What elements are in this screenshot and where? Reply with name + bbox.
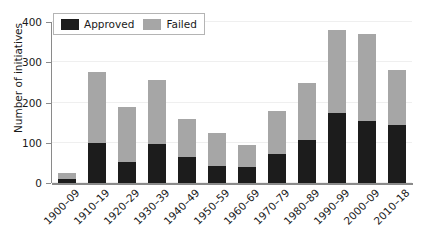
bar-segment-approved (268, 154, 287, 183)
bar-segment-approved (88, 143, 107, 183)
legend-item-failed: Failed (143, 18, 196, 30)
bar-group (268, 111, 287, 183)
bar-segment-failed (328, 30, 347, 113)
bar-segment-approved (208, 166, 227, 183)
bar-group (238, 145, 257, 183)
legend-swatch-approved (61, 19, 79, 30)
bar-group (298, 83, 317, 183)
chart-legend: Approved Failed (53, 13, 205, 35)
bar-segment-approved (178, 157, 197, 183)
bar-group (148, 80, 167, 183)
bar-segment-failed (298, 83, 317, 139)
bar-segment-approved (328, 113, 347, 183)
legend-label-approved: Approved (84, 18, 134, 30)
bar-group (208, 133, 227, 183)
bar-segment-approved (388, 125, 407, 183)
bar-group (388, 70, 407, 183)
y-tick-label: 400 (0, 17, 42, 28)
bar-group (118, 107, 137, 183)
bar-segment-failed (88, 72, 107, 142)
legend-label-failed: Failed (166, 18, 196, 30)
legend-swatch-failed (143, 19, 161, 30)
bar-segment-approved (118, 162, 137, 183)
y-tick-label: 300 (0, 57, 42, 68)
bar-segment-failed (148, 80, 167, 144)
bar-segment-approved (298, 140, 317, 183)
x-axis-line (52, 183, 413, 185)
bar-segment-approved (148, 144, 167, 183)
y-tick-mark (46, 103, 51, 104)
bar-group (88, 72, 107, 183)
bar-segment-failed (178, 119, 197, 156)
y-tick-label: 100 (0, 138, 42, 149)
bar-segment-approved (358, 121, 377, 183)
chart-figure: Number of initiatives 0100200300400 1900… (0, 0, 425, 240)
bar-segment-failed (268, 111, 287, 154)
y-tick-label: 0 (0, 178, 42, 189)
bar-segment-failed (358, 34, 377, 121)
bar-segment-failed (238, 145, 257, 167)
bar-group (358, 34, 377, 183)
bar-segment-approved (58, 179, 77, 183)
bar-segment-failed (208, 133, 227, 166)
bar-group (58, 173, 77, 183)
bar-segment-failed (118, 107, 137, 162)
bar-group (328, 30, 347, 183)
y-tick-mark (46, 183, 51, 184)
bar-segment-approved (238, 167, 257, 183)
y-tick-mark (46, 143, 51, 144)
bar-group (178, 119, 197, 183)
y-tick-label: 200 (0, 98, 42, 109)
bar-segment-failed (388, 70, 407, 125)
y-tick-mark (46, 22, 51, 23)
plot-area (52, 22, 412, 183)
legend-item-approved: Approved (61, 18, 134, 30)
y-tick-mark (46, 62, 51, 63)
